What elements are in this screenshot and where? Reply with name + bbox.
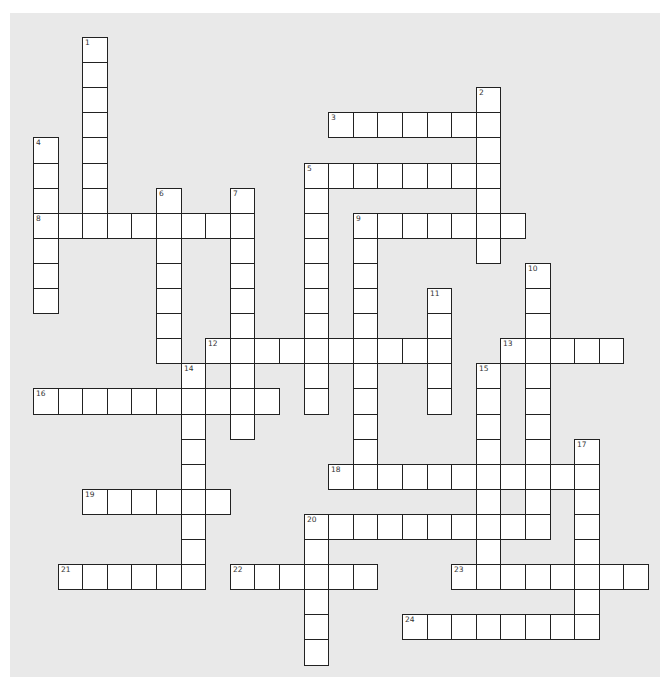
crossword-cell[interactable] [476,188,501,214]
crossword-cell[interactable] [353,564,378,590]
crossword-cell[interactable] [181,439,206,465]
crossword-cell[interactable] [33,188,59,214]
crossword-cell[interactable]: 5 [304,163,329,189]
crossword-cell[interactable] [476,439,501,465]
crossword-cell[interactable] [476,137,501,164]
crossword-cell[interactable] [550,614,575,640]
crossword-cell[interactable] [205,388,231,415]
crossword-cell[interactable] [427,112,452,138]
crossword-cell[interactable] [599,564,624,590]
crossword-cell[interactable] [377,464,403,490]
crossword-cell[interactable] [427,338,452,364]
crossword-cell[interactable] [476,213,501,239]
crossword-cell[interactable] [304,614,329,640]
crossword-cell[interactable] [230,288,255,314]
crossword-cell[interactable] [427,614,452,640]
crossword-cell[interactable] [476,388,501,415]
crossword-cell[interactable] [353,112,378,138]
crossword-cell[interactable] [156,213,182,239]
crossword-cell[interactable] [254,564,280,590]
crossword-cell[interactable] [82,163,108,189]
crossword-cell[interactable]: 7 [230,188,255,214]
crossword-cell[interactable] [304,213,329,239]
crossword-cell[interactable] [451,514,477,540]
crossword-cell[interactable] [500,564,526,590]
crossword-cell[interactable] [427,388,452,415]
crossword-cell[interactable] [304,539,329,565]
crossword-cell[interactable] [328,163,354,189]
crossword-cell[interactable] [181,464,206,490]
crossword-cell[interactable] [328,564,354,590]
crossword-cell[interactable] [230,238,255,264]
crossword-cell[interactable]: 24 [402,614,428,640]
crossword-cell[interactable] [107,564,132,590]
crossword-cell[interactable] [304,288,329,314]
crossword-cell[interactable] [254,338,280,364]
crossword-cell[interactable] [377,514,403,540]
crossword-cell[interactable] [353,288,378,314]
crossword-cell[interactable]: 15 [476,363,501,389]
crossword-cell[interactable] [82,188,108,214]
crossword-cell[interactable] [82,62,108,88]
crossword-cell[interactable]: 21 [58,564,83,590]
crossword-cell[interactable] [574,614,600,640]
crossword-cell[interactable]: 1 [82,37,108,63]
crossword-cell[interactable] [131,564,157,590]
crossword-cell[interactable] [58,213,83,239]
crossword-cell[interactable] [304,238,329,264]
crossword-cell[interactable] [427,213,452,239]
crossword-cell[interactable]: 11 [427,288,452,314]
crossword-cell[interactable] [107,489,132,515]
crossword-cell[interactable] [550,338,575,364]
crossword-cell[interactable] [33,263,59,289]
crossword-cell[interactable] [402,112,428,138]
crossword-cell[interactable]: 2 [476,87,501,113]
crossword-cell[interactable] [181,489,206,515]
crossword-cell[interactable] [402,514,428,540]
crossword-cell[interactable] [353,514,378,540]
crossword-cell[interactable] [328,514,354,540]
crossword-cell[interactable] [377,163,403,189]
crossword-cell[interactable] [304,564,329,590]
crossword-cell[interactable] [525,489,551,515]
crossword-cell[interactable] [623,564,649,590]
crossword-cell[interactable] [156,288,182,314]
crossword-cell[interactable] [451,614,477,640]
crossword-cell[interactable] [574,464,600,490]
crossword-cell[interactable]: 6 [156,188,182,214]
crossword-cell[interactable] [353,414,378,440]
crossword-cell[interactable] [33,288,59,314]
crossword-cell[interactable] [599,338,624,364]
crossword-cell[interactable] [33,238,59,264]
crossword-cell[interactable] [525,439,551,465]
crossword-cell[interactable] [377,112,403,138]
crossword-cell[interactable] [353,238,378,264]
crossword-cell[interactable]: 3 [328,112,354,138]
crossword-cell[interactable]: 19 [82,489,108,515]
crossword-cell[interactable] [254,388,280,415]
crossword-cell[interactable] [550,564,575,590]
crossword-cell[interactable] [500,213,526,239]
crossword-cell[interactable]: 17 [574,439,600,465]
crossword-cell[interactable] [451,213,477,239]
crossword-cell[interactable]: 18 [328,464,354,490]
crossword-cell[interactable] [82,213,108,239]
crossword-cell[interactable] [353,439,378,465]
crossword-cell[interactable] [181,213,206,239]
crossword-cell[interactable] [205,213,231,239]
crossword-cell[interactable] [304,589,329,615]
crossword-cell[interactable] [500,614,526,640]
crossword-cell[interactable] [156,388,182,415]
crossword-cell[interactable] [476,539,501,565]
crossword-cell[interactable] [353,313,378,339]
crossword-cell[interactable] [574,589,600,615]
crossword-cell[interactable] [574,338,600,364]
crossword-cell[interactable] [131,213,157,239]
crossword-cell[interactable] [525,614,551,640]
crossword-cell[interactable] [82,388,108,415]
crossword-cell[interactable] [427,313,452,339]
crossword-cell[interactable] [525,288,551,314]
crossword-cell[interactable] [525,514,551,540]
crossword-cell[interactable] [304,363,329,389]
crossword-cell[interactable] [402,163,428,189]
